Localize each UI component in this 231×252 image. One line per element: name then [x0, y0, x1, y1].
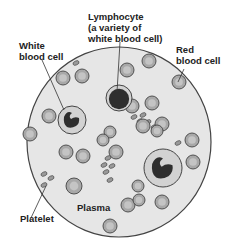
red-blood-cell — [136, 119, 150, 133]
blood-cells-diagram: Lymphocyte (a variety of white blood cel… — [0, 0, 231, 252]
red-blood-cell — [66, 178, 82, 194]
label-red-blood-cell: Red blood cell — [176, 44, 220, 66]
plasma-field — [27, 47, 211, 237]
red-blood-cell — [103, 219, 117, 233]
red-blood-cell — [151, 125, 163, 137]
red-blood-cell — [186, 155, 200, 169]
red-blood-cell — [172, 75, 186, 89]
red-blood-cell — [185, 133, 199, 147]
red-blood-cell — [145, 96, 159, 110]
label-white-blood-cell: White blood cell — [19, 40, 63, 62]
red-blood-cell — [75, 69, 89, 83]
red-blood-cell — [142, 54, 156, 68]
red-blood-cell — [56, 71, 70, 85]
red-blood-cell — [76, 149, 90, 163]
white-blood-cell — [58, 106, 86, 134]
red-blood-cell — [155, 195, 169, 209]
nucleus — [109, 89, 129, 109]
red-blood-cell — [132, 180, 144, 192]
label-plasma: Plasma — [77, 202, 111, 213]
white-blood-cell — [144, 149, 182, 187]
lymphocyte-cell — [106, 85, 132, 111]
red-blood-cell — [109, 145, 123, 159]
red-blood-cell — [120, 63, 134, 77]
label-platelet: Platelet — [20, 213, 55, 224]
red-blood-cell — [133, 194, 145, 206]
label-lymphocyte: Lymphocyte (a variety of white blood cel… — [87, 11, 162, 44]
red-blood-cell — [42, 109, 56, 123]
red-blood-cell — [97, 134, 109, 146]
red-blood-cell — [59, 145, 73, 159]
red-blood-cell — [23, 127, 37, 141]
